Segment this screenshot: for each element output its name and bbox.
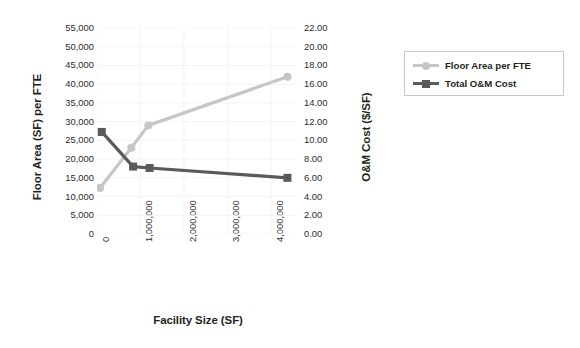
data-point-marker (144, 121, 152, 129)
legend-circle-marker-icon (422, 62, 430, 70)
chart-legend: Floor Area per FTETotal O&M Cost (404, 51, 564, 96)
legend-item[interactable]: Floor Area per FTE (413, 57, 555, 74)
legend-square-marker-icon (422, 80, 430, 88)
data-point-marker (283, 73, 291, 81)
legend-label: Total O&M Cost (445, 78, 516, 89)
legend-label: Floor Area per FTE (445, 60, 531, 71)
series-line (102, 132, 288, 178)
data-point-marker (283, 174, 291, 182)
plot-svg (97, 28, 297, 234)
plot-area (97, 28, 297, 234)
legend-swatch (413, 60, 439, 71)
data-point-marker (146, 164, 154, 172)
legend-item[interactable]: Total O&M Cost (413, 75, 555, 92)
data-point-marker (127, 144, 135, 152)
legend-swatch (413, 78, 439, 89)
data-point-marker (129, 163, 137, 171)
chart-container: Floor Area (SF) per FTE O&M Cost ($/SF) … (0, 0, 580, 348)
x-axis-tick-label: 0 (101, 237, 111, 242)
data-point-marker (98, 128, 106, 136)
